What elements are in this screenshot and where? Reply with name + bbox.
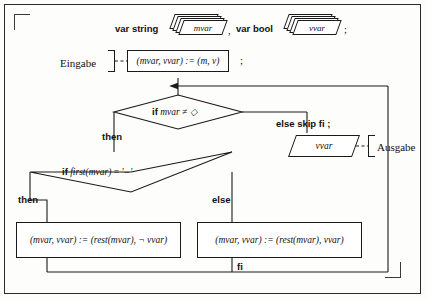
inner-condition: if first(mvar) = '–' <box>62 166 133 177</box>
diagram-page: var string mvar , var bool vvar ; Eingab… <box>0 0 427 299</box>
inner-condition-func: first(mvar) <box>70 167 111 177</box>
then-branch-statement: (mvar, vvar) := (rest(mvar), ¬ vvar) <box>30 235 167 245</box>
inner-then-label: then <box>18 194 38 205</box>
inner-condition-eq: = <box>114 167 119 177</box>
else-branch-statement: (mvar, vvar) := (rest(mvar), vvar) <box>215 235 343 245</box>
then-branch-box: (mvar, vvar) := (rest(mvar), ¬ vvar) <box>16 222 181 258</box>
ausgabe-label: Ausgabe <box>377 141 416 153</box>
inner-condition-if: if <box>62 166 68 177</box>
fi-label: fi <box>237 261 243 272</box>
inner-condition-literal: '–' <box>121 167 133 177</box>
else-branch-box: (mvar, vvar) := (rest(mvar), vvar) <box>197 222 362 258</box>
ausgabe-bracket <box>368 135 375 157</box>
inner-else-label: else <box>212 194 231 205</box>
